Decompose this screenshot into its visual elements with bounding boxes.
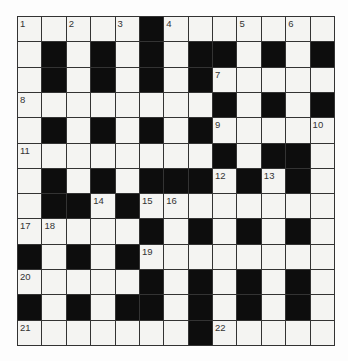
crossword-cell[interactable]: 15 [140,194,163,218]
crossword-cell[interactable] [42,270,65,294]
crossword-cell[interactable] [262,219,285,243]
crossword-cell[interactable] [67,144,90,168]
crossword-cell[interactable] [42,321,65,345]
crossword-cell[interactable]: 8 [18,93,41,117]
crossword-cell[interactable] [237,42,260,66]
crossword-cell[interactable] [262,321,285,345]
crossword-cell[interactable] [18,118,41,142]
crossword-cell[interactable] [213,295,236,319]
crossword-cell[interactable] [237,68,260,92]
crossword-cell[interactable] [67,68,90,92]
crossword-cell[interactable] [213,194,236,218]
crossword-cell[interactable] [237,321,260,345]
crossword-cell[interactable] [286,42,309,66]
crossword-cell[interactable] [262,270,285,294]
crossword-cell[interactable] [311,270,334,294]
crossword-cell[interactable] [262,245,285,269]
crossword-cell[interactable] [164,295,187,319]
crossword-cell[interactable] [311,295,334,319]
crossword-cell[interactable] [237,118,260,142]
crossword-cell[interactable] [237,245,260,269]
crossword-cell[interactable]: 6 [286,17,309,41]
crossword-cell[interactable]: 21 [18,321,41,345]
crossword-cell[interactable] [116,93,139,117]
crossword-cell[interactable] [311,321,334,345]
crossword-cell[interactable] [67,219,90,243]
crossword-cell[interactable] [189,93,212,117]
crossword-cell[interactable] [116,118,139,142]
crossword-cell[interactable] [237,144,260,168]
crossword-cell[interactable] [42,245,65,269]
crossword-cell[interactable] [286,194,309,218]
crossword-cell[interactable] [140,144,163,168]
crossword-cell[interactable] [91,245,114,269]
crossword-cell[interactable] [286,245,309,269]
crossword-cell[interactable] [311,169,334,193]
crossword-cell[interactable] [286,118,309,142]
crossword-cell[interactable] [116,68,139,92]
crossword-cell[interactable] [91,219,114,243]
crossword-cell[interactable]: 1 [18,17,41,41]
crossword-cell[interactable] [213,270,236,294]
crossword-cell[interactable] [42,295,65,319]
crossword-cell[interactable] [116,42,139,66]
crossword-cell[interactable] [189,194,212,218]
crossword-cell[interactable] [213,245,236,269]
crossword-cell[interactable] [164,245,187,269]
crossword-cell[interactable]: 14 [91,194,114,218]
crossword-cell[interactable]: 12 [213,169,236,193]
crossword-cell[interactable] [164,219,187,243]
crossword-cell[interactable] [213,17,236,41]
crossword-cell[interactable] [311,245,334,269]
crossword-cell[interactable] [18,194,41,218]
crossword-cell[interactable] [237,194,260,218]
crossword-cell[interactable] [262,17,285,41]
crossword-cell[interactable] [311,144,334,168]
crossword-cell[interactable]: 17 [18,219,41,243]
crossword-cell[interactable]: 19 [140,245,163,269]
crossword-cell[interactable] [189,144,212,168]
crossword-cell[interactable] [164,93,187,117]
crossword-cell[interactable]: 2 [67,17,90,41]
crossword-cell[interactable] [164,118,187,142]
crossword-cell[interactable]: 10 [311,118,334,142]
crossword-cell[interactable] [189,17,212,41]
crossword-cell[interactable] [67,42,90,66]
crossword-cell[interactable] [42,93,65,117]
crossword-cell[interactable] [116,321,139,345]
crossword-cell[interactable] [116,169,139,193]
crossword-cell[interactable] [262,295,285,319]
crossword-cell[interactable]: 3 [116,17,139,41]
crossword-cell[interactable] [91,295,114,319]
crossword-cell[interactable] [42,144,65,168]
crossword-cell[interactable] [164,68,187,92]
crossword-cell[interactable] [18,169,41,193]
crossword-cell[interactable] [164,321,187,345]
crossword-cell[interactable] [67,169,90,193]
crossword-cell[interactable] [189,245,212,269]
crossword-cell[interactable]: 13 [262,169,285,193]
crossword-cell[interactable] [67,270,90,294]
crossword-cell[interactable]: 20 [18,270,41,294]
crossword-cell[interactable] [67,118,90,142]
crossword-cell[interactable] [311,17,334,41]
crossword-cell[interactable] [213,219,236,243]
crossword-cell[interactable] [262,194,285,218]
crossword-cell[interactable] [311,68,334,92]
crossword-cell[interactable]: 9 [213,118,236,142]
crossword-cell[interactable] [286,321,309,345]
crossword-cell[interactable]: 4 [164,17,187,41]
crossword-cell[interactable] [116,219,139,243]
crossword-cell[interactable] [311,194,334,218]
crossword-cell[interactable] [286,68,309,92]
crossword-cell[interactable] [140,321,163,345]
crossword-cell[interactable] [286,93,309,117]
crossword-cell[interactable] [116,270,139,294]
crossword-cell[interactable] [91,93,114,117]
crossword-cell[interactable]: 5 [237,17,260,41]
crossword-cell[interactable] [67,93,90,117]
crossword-cell[interactable] [91,270,114,294]
crossword-cell[interactable] [262,68,285,92]
crossword-cell[interactable]: 7 [213,68,236,92]
crossword-cell[interactable] [91,144,114,168]
